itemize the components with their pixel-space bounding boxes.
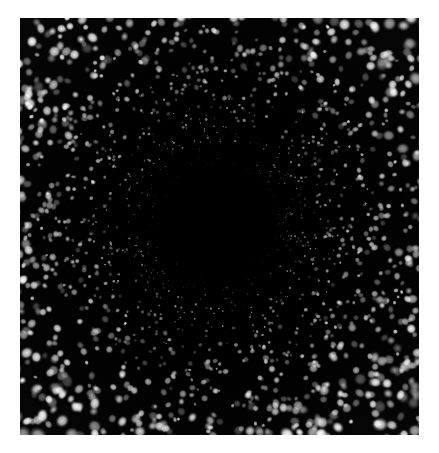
image-page xyxy=(0,0,439,453)
particle-scatter-canvas xyxy=(20,18,419,435)
particle-field xyxy=(20,18,419,435)
